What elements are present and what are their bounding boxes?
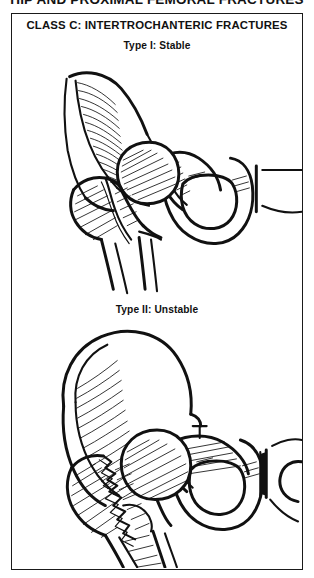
hip-anatomy-drawing-unstable	[12, 318, 302, 568]
running-head-container: HIP AND PROXIMAL FEMORAL FRACTURES	[0, 0, 314, 9]
proximal-femur-unstable	[67, 430, 190, 567]
figure-panel-title: CLASS C: INTERTROCHANTERIC FRACTURES	[12, 19, 302, 31]
proximal-femur-stable	[71, 142, 179, 293]
illustration-type-2-unstable	[12, 318, 302, 568]
figure-panel: CLASS C: INTERTROCHANTERIC FRACTURES Typ…	[11, 13, 303, 570]
subfigure-label-type-2: Type II: Unstable	[12, 304, 302, 315]
subfigure-label-type-1: Type I: Stable	[12, 40, 302, 51]
pubic-symphysis-stable	[256, 166, 302, 212]
hip-anatomy-drawing-stable	[12, 54, 302, 300]
illustration-type-1-stable	[12, 54, 302, 300]
running-head-text: HIP AND PROXIMAL FEMORAL FRACTURES	[10, 0, 304, 7]
pubic-symphysis-unstable	[260, 439, 302, 521]
